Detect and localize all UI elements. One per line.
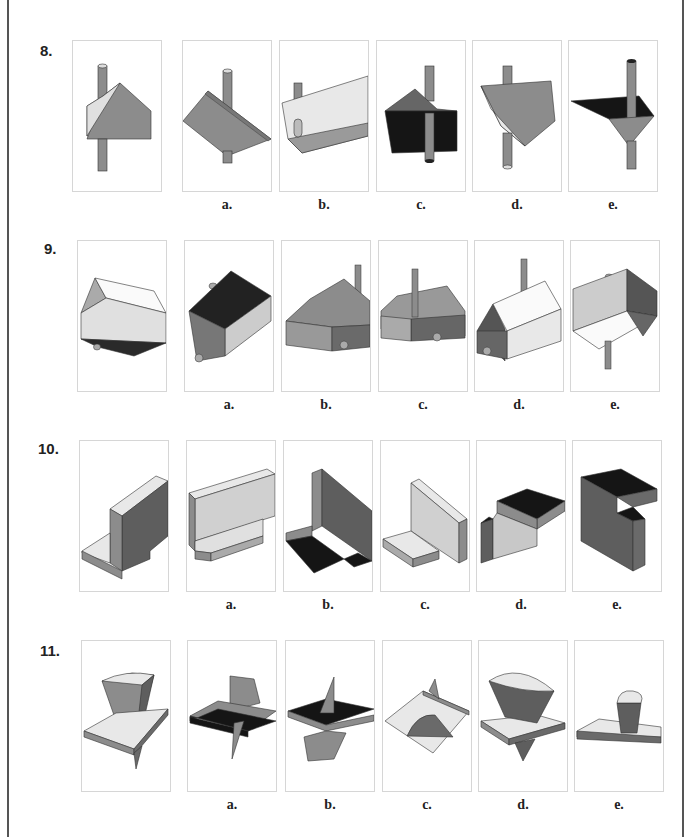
option-label-b[interactable]: b. [285,797,375,813]
option-d-figure[interactable] [478,640,568,792]
option-label-a[interactable]: a. [184,397,274,413]
house-figure [571,241,659,391]
option-label-e[interactable]: e. [572,597,662,613]
prism-rod-figure [73,41,161,191]
option-label-c[interactable]: c. [378,397,468,413]
option-b-figure[interactable] [283,440,373,592]
page-border-right [682,0,684,837]
option-label-e[interactable]: e. [574,797,664,813]
option-label-a[interactable]: a. [187,797,277,813]
reference-figure [79,440,169,592]
option-a-figure[interactable] [182,40,272,192]
option-e-figure[interactable] [570,240,660,392]
option-b-figure[interactable] [279,40,369,192]
question-number: 10. [38,440,59,457]
l-bracket-figure [573,441,661,591]
option-label-e[interactable]: e. [570,397,660,413]
page-border-left [7,0,9,837]
option-label-c[interactable]: c. [380,597,470,613]
l-bracket-figure [187,441,275,591]
option-label-c[interactable]: c. [382,797,472,813]
option-a-figure[interactable] [187,640,277,792]
prism-rod-figure [377,41,465,191]
option-a-figure[interactable] [184,240,274,392]
plate-frustum-figure [82,641,170,791]
prism-rod-figure [473,41,561,191]
plate-frustum-figure [286,641,374,791]
option-label-c[interactable]: c. [376,197,466,213]
house-figure [379,241,467,391]
prism-rod-figure [183,41,271,191]
option-label-d[interactable]: d. [476,597,566,613]
plate-frustum-figure [479,641,567,791]
option-label-d[interactable]: d. [478,797,568,813]
option-b-figure[interactable] [281,240,371,392]
option-label-a[interactable]: a. [182,197,272,213]
reference-figure [72,40,162,192]
option-label-b[interactable]: b. [283,597,373,613]
option-label-d[interactable]: d. [474,397,564,413]
option-c-figure[interactable] [382,640,472,792]
prism-rod-figure [569,41,657,191]
reference-figure [81,640,171,792]
option-label-b[interactable]: b. [279,197,369,213]
option-d-figure[interactable] [474,240,564,392]
house-figure [282,241,370,391]
plate-frustum-figure [383,641,471,791]
option-b-figure[interactable] [285,640,375,792]
question-number: 8. [40,42,53,59]
l-bracket-figure [284,441,372,591]
l-bracket-figure [477,441,565,591]
l-bracket-figure [381,441,469,591]
option-e-figure[interactable] [568,40,658,192]
option-c-figure[interactable] [376,40,466,192]
option-c-figure[interactable] [378,240,468,392]
question-number: 11. [40,642,60,659]
prism-rod-figure [280,41,368,191]
house-figure [475,241,563,391]
option-e-figure[interactable] [572,440,662,592]
option-c-figure[interactable] [380,440,470,592]
option-label-e[interactable]: e. [568,197,658,213]
house-figure [78,241,166,391]
plate-frustum-figure [188,641,276,791]
plate-frustum-figure [575,641,663,791]
question-number: 9. [44,240,57,257]
house-figure [185,241,273,391]
option-label-b[interactable]: b. [281,397,371,413]
option-a-figure[interactable] [186,440,276,592]
reference-figure [77,240,167,392]
option-e-figure[interactable] [574,640,664,792]
option-label-a[interactable]: a. [186,597,276,613]
option-d-figure[interactable] [476,440,566,592]
option-d-figure[interactable] [472,40,562,192]
option-label-d[interactable]: d. [472,197,562,213]
l-bracket-figure [80,441,168,591]
